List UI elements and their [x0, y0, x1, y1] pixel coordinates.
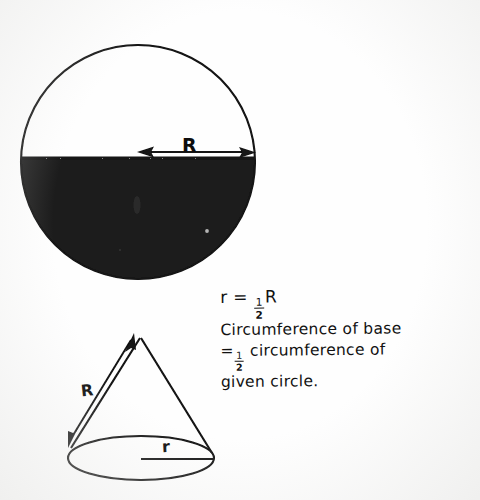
- given-circle-figure: [15, 45, 265, 288]
- annotation-line3-suffix: circumference of: [245, 340, 386, 359]
- annotation-line-3: =12 circumference of: [220, 339, 470, 372]
- one-half-fraction-2: 12: [235, 350, 244, 372]
- one-half-fraction: 12: [254, 297, 264, 321]
- fraction-denominator: 2: [254, 309, 264, 320]
- cone-base-radius-label: r: [162, 437, 171, 456]
- annotation-text-block: r = 12R Circumference of base =12 circum…: [220, 284, 471, 393]
- fraction-numerator: 1: [235, 350, 243, 360]
- fraction-denominator: 2: [235, 362, 244, 372]
- annotation-line-equation: r = 12R: [220, 284, 470, 321]
- annotation-line1-prefix: r =: [220, 287, 253, 307]
- annotation-line-4: given circle.: [221, 370, 471, 393]
- diagram-page: R R r r = 12R Circumference of base =12 …: [0, 0, 480, 500]
- figure-canvas: [0, 0, 480, 500]
- annotation-line3-prefix: =: [220, 342, 233, 360]
- annotation-line1-suffix: R: [265, 287, 277, 307]
- annotation-line-2: Circumference of base: [220, 318, 470, 341]
- circle-radius-label: R: [182, 134, 197, 156]
- cone-slant-arrow: [68, 333, 136, 448]
- fraction-numerator: 1: [255, 297, 264, 308]
- cone-slant-label: R: [80, 380, 94, 400]
- circle-shaded-half: [15, 158, 265, 288]
